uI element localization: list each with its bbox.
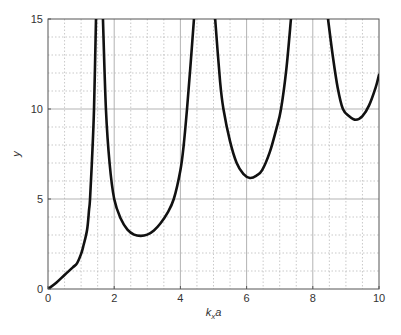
x-axis-label: kxa <box>206 306 222 321</box>
y-tick-label: 15 <box>31 13 43 25</box>
y-tick-label: 5 <box>37 193 43 205</box>
x-tick-label: 2 <box>111 292 117 304</box>
chart-figure: 0246810 051015 kxa y <box>0 0 401 335</box>
x-tick-label: 6 <box>244 292 250 304</box>
x-tick-label: 8 <box>310 292 316 304</box>
x-tick-label: 0 <box>45 292 51 304</box>
x-tick-label: 10 <box>373 292 385 304</box>
x-tick-label: 4 <box>177 292 183 304</box>
curve-branch-4 <box>328 19 379 120</box>
plot-frame <box>48 19 379 289</box>
x-axis-label-tail: a <box>215 306 221 318</box>
y-axis-label: y <box>10 150 22 158</box>
minor-grid <box>48 19 379 289</box>
curve-series <box>48 19 379 289</box>
curve-branch-1 <box>48 19 96 289</box>
curve-branch-3 <box>215 19 291 178</box>
y-tick-label: 10 <box>31 103 43 115</box>
y-tick-label: 0 <box>37 283 43 295</box>
major-grid <box>48 19 379 289</box>
